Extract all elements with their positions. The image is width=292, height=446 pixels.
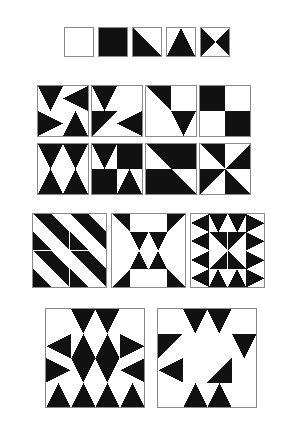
offset-arrow-block: [91, 85, 143, 137]
heart-and-pennant-block: [91, 143, 143, 195]
tile-half: [167, 214, 185, 232]
tile-mountain: [63, 144, 88, 169]
tile-blank: [232, 358, 257, 383]
tile-mountain: [246, 269, 264, 287]
concentric-diamond-block: [111, 213, 186, 288]
tile-blank: [149, 214, 167, 232]
tile-half: [33, 269, 51, 287]
tile-mountain: [246, 214, 264, 232]
tile-blank: [232, 309, 257, 334]
tile-blank: [130, 214, 148, 232]
tile-half: [88, 214, 106, 232]
tile-half: [92, 111, 117, 136]
tile-mountain: [207, 383, 232, 408]
tile-half: [146, 86, 171, 111]
tile-half: [33, 232, 51, 250]
tile-mountain: [95, 309, 120, 334]
tile-half: [88, 232, 106, 250]
tile-solid: [117, 144, 142, 169]
tile-solid: [92, 169, 117, 194]
composition-row-1: [37, 85, 251, 137]
tile-blank: [112, 251, 130, 269]
tile-mountain: [38, 144, 63, 169]
wide-diagonal-band-block: [145, 143, 197, 195]
tile-mountain: [71, 358, 96, 383]
eight-point-star-block: [190, 213, 265, 288]
tile-mountain: [209, 214, 227, 232]
tile-half: [51, 232, 69, 250]
tile-mountain: [149, 232, 167, 250]
tile-blank: [120, 309, 145, 334]
tile-mountain: [183, 309, 208, 334]
tile-mountain: [92, 144, 117, 169]
tile-mountain: [117, 169, 142, 194]
tile-blank: [149, 269, 167, 287]
interlocked-pinwheel-block: [157, 308, 257, 408]
tile-blank: [158, 309, 183, 334]
tile-half: [146, 144, 171, 169]
tile-blank: [167, 232, 185, 250]
tile-blank: [200, 111, 225, 136]
tile-mountain: [191, 232, 209, 250]
tile-half: [158, 334, 183, 359]
tile-half: [209, 232, 227, 250]
tile-half: [112, 214, 130, 232]
composition-row-2: [37, 143, 251, 195]
tile-blank: [171, 86, 196, 111]
tile-blank: [146, 111, 171, 136]
tile-mountain: [95, 358, 120, 383]
tile-mountain: [95, 334, 120, 359]
tile-mountain: [120, 334, 145, 359]
tile-blank: [232, 383, 257, 408]
tile-blank: [117, 86, 142, 111]
tile-mountain: [130, 232, 148, 250]
tile-half: [51, 251, 69, 269]
tile-half: [88, 251, 106, 269]
tile-mountain: [149, 251, 167, 269]
tile-mountain: [71, 309, 96, 334]
tile-half: [70, 214, 88, 232]
tile-blank: [158, 383, 183, 408]
tile-mountain: [46, 334, 71, 359]
tile-mountain: [71, 334, 96, 359]
tile-half: [228, 232, 246, 250]
tile-half: [225, 144, 250, 169]
tile-half: [112, 269, 130, 287]
tile-half: [171, 169, 196, 194]
tile-blank: [167, 251, 185, 269]
tile-solid: [146, 169, 171, 194]
diamond-over-triangle-block: [37, 143, 89, 195]
double-chevron-block: [145, 85, 197, 137]
primitive-tile-legend: [64, 27, 230, 57]
bowtie-tile: [200, 27, 230, 57]
tile-mountain: [38, 169, 63, 194]
tile-mountain: [171, 111, 196, 136]
tile-blank: [207, 334, 232, 359]
tile-mountain: [46, 383, 71, 408]
tile-mountain: [38, 111, 63, 136]
tile-mountain: [158, 358, 183, 383]
tile-blank: [130, 269, 148, 287]
tile-mountain: [38, 86, 63, 111]
mountain-tile: [166, 27, 196, 57]
tile-half: [200, 169, 225, 194]
tile-mountain: [92, 86, 117, 111]
diagonal-stripes-block: [32, 213, 107, 288]
composition-row-3: [32, 213, 265, 288]
tile-blank: [112, 232, 130, 250]
tile-mountain: [95, 383, 120, 408]
tile-mountain: [209, 269, 227, 287]
tile-half: [33, 214, 51, 232]
tile-mountain: [228, 269, 246, 287]
tile-mountain: [63, 169, 88, 194]
tile-solid: [225, 111, 250, 136]
tile-half: [209, 251, 227, 269]
tile-half: [51, 214, 69, 232]
tile-mountain: [183, 383, 208, 408]
geometric-tile-pattern-figure: [0, 0, 292, 446]
blank-tile: [64, 27, 94, 57]
tile-mountain: [71, 383, 96, 408]
tile-blank: [225, 86, 250, 111]
tile-half: [70, 251, 88, 269]
tile-mountain: [117, 111, 142, 136]
